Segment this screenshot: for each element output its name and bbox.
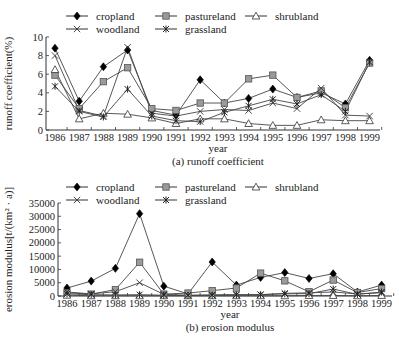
y-tick-label: 0 xyxy=(38,125,43,136)
legend-item-cropland: cropland xyxy=(66,181,135,193)
legend-label: grassland xyxy=(185,23,227,35)
star-marker-icon xyxy=(318,91,324,98)
legend-label: shrubland xyxy=(275,181,319,193)
square-marker-icon xyxy=(270,72,276,78)
x-axis-label: year xyxy=(221,308,240,320)
diamond-marker-icon xyxy=(282,269,288,277)
star-marker-icon xyxy=(125,86,131,93)
diamond-marker-icon xyxy=(270,85,276,93)
legend: croplandpasturelandshrublandwoodlandgras… xyxy=(66,10,319,35)
legend-label: shrubland xyxy=(275,10,319,22)
legend-item-pastureland: pastureland xyxy=(155,181,236,193)
y-tick-label: 8 xyxy=(38,50,43,61)
chart-caption: (a) runoff coefficient xyxy=(172,155,264,168)
y-tick-label: 2 xyxy=(38,106,43,117)
y-tick-label: 25000 xyxy=(29,224,55,235)
square-marker-icon xyxy=(124,64,130,70)
legend-item-woodland: woodland xyxy=(66,194,140,206)
x-tick-label: 1987 xyxy=(81,298,102,309)
legend: croplandpasturelandshrublandwoodlandgras… xyxy=(66,181,319,206)
square-marker-icon xyxy=(163,13,169,19)
square-marker-icon xyxy=(100,78,106,84)
x-tick-label: 1991 xyxy=(166,132,187,143)
x-tick-label: 1987 xyxy=(69,132,90,143)
square-marker-icon xyxy=(233,285,239,291)
legend-item-shrubland: shrubland xyxy=(245,181,319,193)
x-tick-label: 1996 xyxy=(299,298,320,309)
square-marker-icon xyxy=(221,100,227,106)
legend-label: woodland xyxy=(96,194,140,206)
diamond-marker-icon xyxy=(74,183,80,191)
chart-a: 0246810198619871988198919901991199219931… xyxy=(2,10,382,168)
y-tick-label: 35000 xyxy=(29,198,55,209)
y-tick-label: 10 xyxy=(33,32,44,43)
x-tick-label: 1995 xyxy=(262,132,283,143)
square-marker-icon xyxy=(136,259,142,265)
series-markers-cropland xyxy=(64,210,385,298)
diamond-marker-icon xyxy=(52,44,58,52)
square-marker-icon xyxy=(294,94,300,100)
y-tick-label: 0 xyxy=(50,291,55,302)
x-tick-label: 1990 xyxy=(153,298,174,309)
legend-label: grassland xyxy=(185,194,227,206)
legend-item-grassland: grassland xyxy=(155,194,227,206)
x-tick-label: 1988 xyxy=(93,132,114,143)
chart-b: 0500010000150002000025000300003500019861… xyxy=(2,181,394,334)
x-tick-label: 1989 xyxy=(117,132,138,143)
star-marker-icon xyxy=(342,108,348,115)
chart-caption: (b) erosion modulus xyxy=(186,321,275,334)
y-axis-label: runoff coefficient(%) xyxy=(2,36,15,130)
x-tick-label: 1989 xyxy=(129,298,150,309)
x-tick-label: 1999 xyxy=(371,298,392,309)
x-tick-label: 1986 xyxy=(45,132,66,143)
star-marker-icon xyxy=(100,113,106,120)
figure: 0246810198619871988198919901991199219931… xyxy=(0,0,399,338)
x-tick-label: 1999 xyxy=(359,132,380,143)
star-marker-icon xyxy=(52,83,58,90)
y-tick-label: 4 xyxy=(38,87,44,98)
x-tick-label: 1996 xyxy=(287,132,308,143)
y-tick-label: 5000 xyxy=(34,277,55,288)
square-marker-icon xyxy=(173,107,179,113)
legend-label: cropland xyxy=(96,181,135,193)
x-tick-label: 1994 xyxy=(250,298,272,309)
square-marker-icon xyxy=(245,76,251,82)
square-marker-icon xyxy=(163,184,169,190)
diamond-marker-icon xyxy=(112,264,118,272)
x-tick-label: 1990 xyxy=(141,132,162,143)
y-tick-label: 30000 xyxy=(29,211,55,222)
legend-label: woodland xyxy=(96,23,140,35)
star-marker-icon xyxy=(221,109,227,116)
y-tick-label: 15000 xyxy=(29,251,55,262)
square-marker-icon xyxy=(257,270,263,276)
diamond-marker-icon xyxy=(74,12,80,20)
square-marker-icon xyxy=(282,278,288,284)
x-tick-label: 1991 xyxy=(178,298,199,309)
triangle-marker-icon xyxy=(51,66,59,73)
x-tick-label: 1997 xyxy=(311,132,332,143)
x-tick-label: 1997 xyxy=(323,298,344,309)
legend-item-pastureland: pastureland xyxy=(155,10,236,22)
triangle-marker-icon xyxy=(317,116,325,123)
y-tick-label: 10000 xyxy=(29,264,55,275)
legend-item-cropland: cropland xyxy=(66,10,135,22)
y-tick-label: 6 xyxy=(38,69,43,80)
diamond-marker-icon xyxy=(161,282,167,290)
legend-label: pastureland xyxy=(185,10,236,22)
x-marker-icon xyxy=(136,280,142,286)
square-marker-icon xyxy=(330,277,336,283)
x-tick-label: 1998 xyxy=(335,132,356,143)
x-marker-icon xyxy=(52,52,58,58)
x-tick-label: 1995 xyxy=(274,298,295,309)
y-axis-label: erosion modulus[t/(km² · a)] xyxy=(2,187,15,312)
star-marker-icon xyxy=(246,102,252,109)
square-marker-icon xyxy=(197,100,203,106)
legend-label: cropland xyxy=(96,10,135,22)
x-tick-label: 1998 xyxy=(347,298,368,309)
y-tick-label: 20000 xyxy=(29,237,55,248)
x-tick-label: 1994 xyxy=(238,132,260,143)
series-markers-pastureland xyxy=(64,259,385,297)
legend-label: pastureland xyxy=(185,181,236,193)
x-axis-label: year xyxy=(209,142,228,154)
diamond-marker-icon xyxy=(136,210,142,218)
